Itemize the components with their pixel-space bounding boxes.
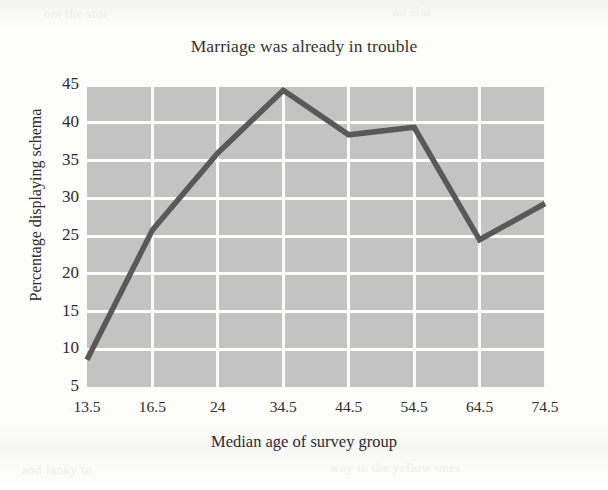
x-tick-label: 44.5	[314, 398, 384, 416]
x-tick-label: 16.5	[117, 398, 187, 416]
plot-area	[87, 85, 545, 387]
y-tick-label: 15	[35, 301, 79, 321]
y-tick-label: 45	[35, 74, 79, 94]
y-tick-label: 40	[35, 112, 79, 132]
y-tick-label: 10	[35, 338, 79, 358]
x-tick-label: 34.5	[248, 398, 318, 416]
y-tick-label: 35	[35, 150, 79, 170]
y-tick-label: 25	[35, 225, 79, 245]
chart-title: Marriage was already in trouble	[0, 36, 608, 57]
x-tick-label: 54.5	[379, 398, 449, 416]
series-line	[87, 85, 545, 387]
x-tick-label: 74.5	[510, 398, 580, 416]
x-axis-label: Median age of survey group	[0, 432, 608, 452]
y-tick-label: 30	[35, 187, 79, 207]
scanned-page: om the stor no elm and lanky to way to t…	[0, 0, 608, 490]
y-tick-label: 20	[35, 263, 79, 283]
x-tick-label: 13.5	[52, 398, 122, 416]
y-tick-label: 5	[35, 376, 79, 396]
x-tick-label: 64.5	[445, 398, 515, 416]
x-tick-label: 24	[183, 398, 253, 416]
line-chart-figure: Marriage was already in trouble Percenta…	[0, 0, 608, 490]
